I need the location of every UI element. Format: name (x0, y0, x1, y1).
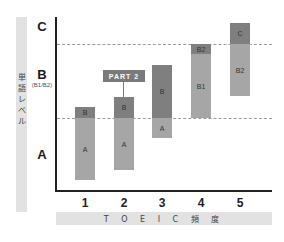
y-title-char: レ (18, 94, 26, 105)
y-tick-b-sublabel: (B1/B2) (27, 82, 57, 88)
x-tick-4: 4 (191, 196, 211, 210)
y-title-char: 単 (18, 72, 26, 83)
y-tick-b: B (32, 67, 52, 82)
bar-segment: A (152, 118, 172, 138)
y-title-char: ル (18, 116, 26, 127)
bar-segment: B (152, 65, 172, 118)
bar-3: B A (152, 65, 172, 138)
y-title-char: 語 (18, 83, 26, 94)
x-tick-1: 1 (75, 196, 95, 210)
y-axis-title: 単 語 レ ベ ル (16, 72, 27, 127)
y-tick-c: C (32, 19, 52, 34)
bar-segment: B2 (230, 44, 250, 96)
x-tick-3: 3 (152, 196, 172, 210)
x-tick-2: 2 (114, 196, 134, 210)
y-title-char: ベ (18, 105, 26, 116)
callout-connector (123, 82, 124, 97)
x-tick-5: 5 (230, 196, 250, 210)
bar-2: B A (114, 97, 134, 170)
y-tick-a: A (32, 147, 52, 162)
bar-segment: A (114, 118, 134, 170)
bar-segment: B (75, 107, 95, 118)
bar-1: B A (75, 107, 95, 180)
bar-segment: C (230, 23, 250, 44)
bar-5: C B2 (230, 23, 250, 96)
x-axis-title: T O E I C 頻 度 (56, 212, 272, 225)
part2-callout: PART 2 (103, 70, 145, 82)
bar-segment: B (114, 97, 134, 118)
bar-4: B2 B1 (191, 44, 211, 118)
bar-segment: A (75, 118, 95, 180)
bar-segment: B1 (191, 54, 211, 118)
x-axis-line (55, 190, 272, 192)
bar-segment: B2 (191, 44, 211, 54)
